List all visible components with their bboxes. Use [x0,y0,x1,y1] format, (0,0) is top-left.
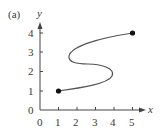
end-point-marker [130,30,135,35]
plot-area [0,0,165,138]
x-axis-arrow-icon [139,108,146,113]
start-point-marker [56,88,61,93]
y-axis-arrow-icon [38,22,43,29]
s-curve [59,33,133,91]
